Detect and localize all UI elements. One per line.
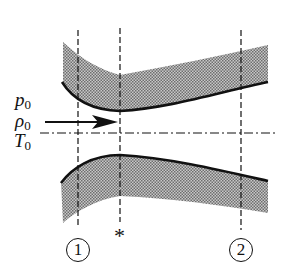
label-T0: T0 <box>14 131 31 152</box>
throat-star-label: * <box>114 225 125 247</box>
station-1-label: 1 <box>66 238 90 262</box>
lower-wall-hatch <box>61 155 268 223</box>
label-rho0: ρ0 <box>15 111 31 132</box>
label-p0: p0 <box>15 90 31 111</box>
upper-wall-hatch <box>63 42 268 111</box>
station-2-label: 2 <box>229 238 253 262</box>
